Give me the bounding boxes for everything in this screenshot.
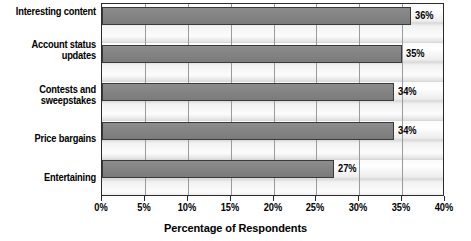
x-tick-label: 30% xyxy=(339,202,376,213)
bar-value-label: 27% xyxy=(338,163,357,174)
category-label-line2: updates xyxy=(7,50,96,61)
x-tick xyxy=(273,196,274,201)
x-axis: 0%5%10%15%20%25%30%35%40% xyxy=(101,196,444,220)
x-axis-title: Percentage of Respondents xyxy=(0,222,471,234)
x-tick xyxy=(401,196,402,201)
category-label-line1: Entertaining xyxy=(7,172,96,183)
category-label-contests-and-sweepstakes: Contests and sweepstakes xyxy=(7,84,96,106)
x-tick xyxy=(315,196,316,201)
plot-area xyxy=(101,3,444,196)
bar-value-label: 34% xyxy=(398,86,417,97)
category-label-line1: Contests and xyxy=(7,84,96,95)
bar xyxy=(102,45,402,63)
x-tick-label: 15% xyxy=(211,202,248,213)
category-label-line2: sweepstakes xyxy=(7,95,96,106)
bar-chart: Interesting content Account status updat… xyxy=(0,0,471,241)
x-tick-label: 40% xyxy=(425,202,462,213)
bar-value-label: 34% xyxy=(398,125,417,136)
category-label-line1: Price bargains xyxy=(7,133,96,144)
x-tick-label: 5% xyxy=(125,202,162,213)
x-tick-label: 0% xyxy=(82,202,119,213)
x-tick xyxy=(187,196,188,201)
bar-value-label: 36% xyxy=(415,10,434,21)
category-label-interesting-content: Interesting content xyxy=(7,6,96,17)
bar xyxy=(102,83,394,101)
x-tick xyxy=(230,196,231,201)
bar xyxy=(102,7,411,25)
x-tick-label: 35% xyxy=(382,202,419,213)
x-tick xyxy=(101,196,102,201)
x-tick xyxy=(358,196,359,201)
bar-value-label: 35% xyxy=(406,48,425,59)
gridline xyxy=(402,4,403,195)
category-label-price-bargains: Price bargains xyxy=(7,133,96,144)
category-label-line1: Interesting content xyxy=(7,6,96,17)
x-tick xyxy=(444,196,445,201)
category-label-account-status-updates: Account status updates xyxy=(7,39,96,61)
x-tick-label: 10% xyxy=(168,202,205,213)
x-tick-label: 20% xyxy=(254,202,291,213)
x-tick xyxy=(144,196,145,201)
category-label-line1: Account status xyxy=(7,39,96,50)
category-label-entertaining: Entertaining xyxy=(7,172,96,183)
bar xyxy=(102,122,394,140)
bar xyxy=(102,160,334,178)
x-tick-label: 25% xyxy=(296,202,333,213)
category-axis: Interesting content Account status updat… xyxy=(0,0,96,196)
